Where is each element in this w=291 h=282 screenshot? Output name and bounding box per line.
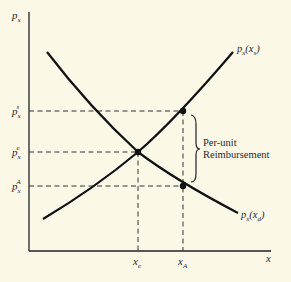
supply-price-point	[180, 108, 186, 114]
y-tick-equilibrium-price: pxe	[11, 144, 22, 161]
y-axis-label: px	[11, 9, 22, 24]
demand-price-point	[180, 183, 186, 189]
supply-curve-label: px(xs)	[236, 43, 260, 57]
demand-curve-label: px(xd)	[240, 209, 265, 223]
y-tick-supply-price: pxs	[11, 103, 22, 120]
x-tick-reimbursed-quantity: xA	[177, 255, 188, 270]
demand-curve	[47, 52, 238, 213]
brace-label-line2: Reimbursement	[203, 149, 270, 160]
y-tick-demand-price: pxA	[11, 178, 22, 195]
supply-demand-diagram: Per-unit Reimbursement px x pxs pxe pxA …	[0, 0, 291, 282]
x-axis-label: x	[265, 252, 271, 264]
equilibrium-point	[135, 149, 141, 155]
reimbursement-brace	[191, 115, 200, 182]
brace-label-line1: Per-unit	[203, 137, 237, 148]
x-tick-equilibrium-quantity: xe	[132, 255, 141, 270]
